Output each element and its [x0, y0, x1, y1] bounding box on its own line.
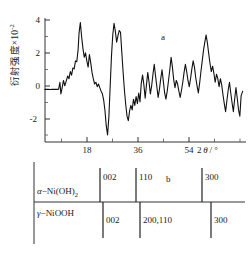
panel-b-reference-peaks: α−Ni(OH)2 γ−NiOOH 002 110 300 002 200,11…: [0, 160, 252, 274]
x-axis-ticks: [87, 137, 189, 142]
x-axis-title-prefix: 2: [197, 145, 202, 155]
y-tick-label-2: 2: [24, 48, 40, 58]
y-tick-label-4: 4: [24, 15, 40, 25]
x-axis-minor-ticks: [62, 139, 241, 143]
hkl-alpha-002: 002: [103, 172, 117, 182]
panel-a-diffraction-plot: 衍射强度×10-2 4 2 0 -2 18 36 54 2 θ / ° a: [0, 0, 252, 160]
y-tick-label-0: 0: [24, 81, 40, 91]
phase-label-alpha: α−Ni(OH)2: [37, 186, 78, 198]
y-axis-label-text: 衍射强度×10: [10, 30, 20, 86]
panel-b-letter: b: [166, 174, 171, 184]
x-tick-label-18: 18: [76, 145, 98, 155]
y-tick-label-neg2: -2: [21, 114, 37, 124]
diffraction-curve: [45, 22, 243, 134]
phase-gamma-name: NiOOH: [46, 208, 75, 218]
xrd-figure: 衍射强度×10-2 4 2 0 -2 18 36 54 2 θ / ° a: [0, 0, 252, 274]
x-axis-title-suffix: / °: [210, 145, 218, 155]
phase-alpha-name: Ni(OH): [47, 186, 75, 196]
hkl-alpha-300: 300: [205, 172, 219, 182]
phase-alpha-subscript: 2: [75, 191, 78, 198]
y-axis-label: 衍射强度×10-2: [7, 19, 21, 91]
x-axis-title-theta: θ: [203, 145, 207, 155]
hkl-gamma-300: 300: [214, 215, 228, 225]
phase-label-gamma: γ−NiOOH: [37, 208, 74, 218]
x-tick-label-36: 36: [127, 145, 149, 155]
hkl-gamma-002: 002: [106, 215, 120, 225]
hkl-alpha-110: 110: [139, 172, 152, 182]
hkl-gamma-200-110: 200,110: [143, 215, 172, 225]
y-axis-label-exponent: -2: [8, 24, 15, 30]
x-axis-title: 2 θ / °: [197, 145, 218, 155]
panel-a-letter: a: [161, 32, 165, 42]
